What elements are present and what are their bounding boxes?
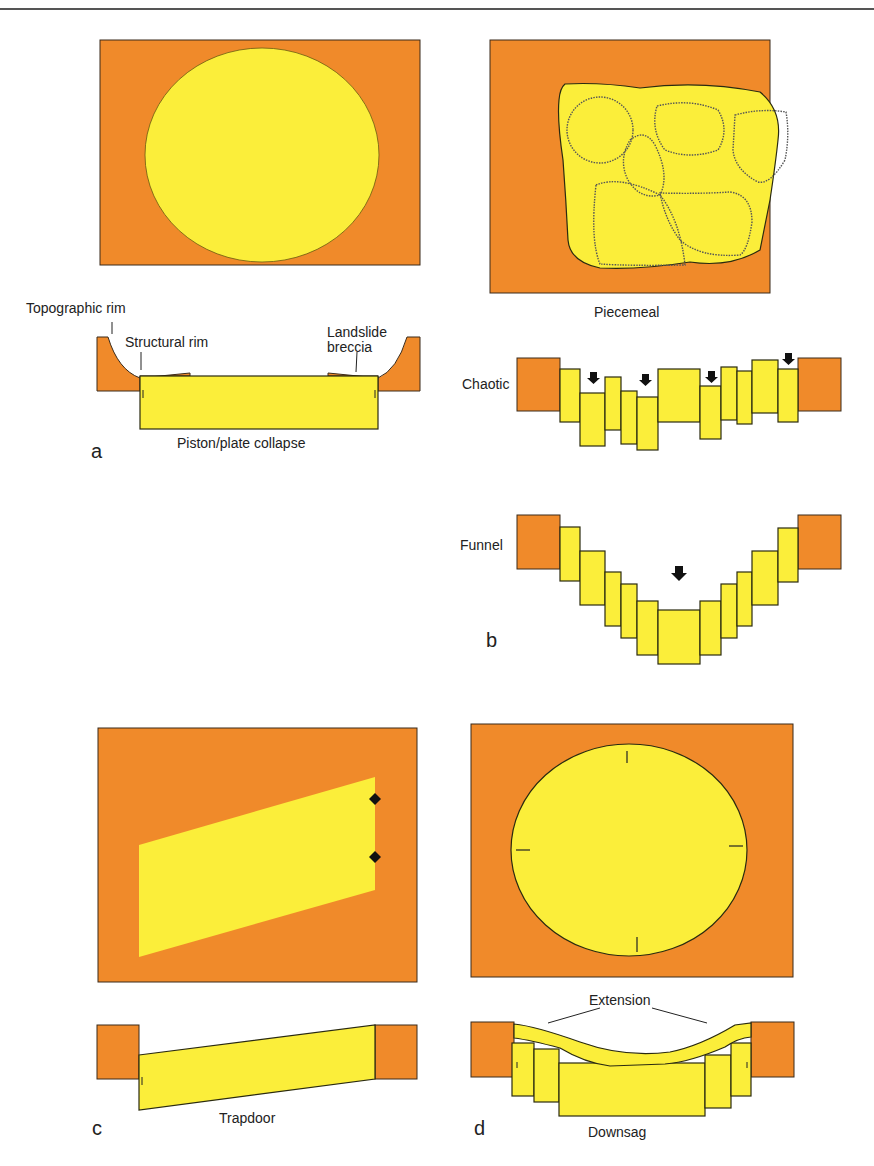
panel-b: Piecemeal Chaotic [460, 40, 841, 664]
chaotic-label: Chaotic [462, 376, 509, 392]
caldera-diagram: Topographic rim Structural rim Landslide… [0, 0, 874, 1166]
panel-a-title: Piston/plate collapse [177, 435, 306, 451]
panel-a: Topographic rim Structural rim Landslide… [26, 40, 420, 462]
chaotic-section [517, 353, 841, 450]
panel-d-cross-section [471, 1022, 794, 1116]
panel-a-map-view [100, 40, 420, 265]
landslide-breccia-leader [356, 352, 357, 372]
panel-b-letter: b [486, 629, 497, 651]
extension-arrows [548, 1008, 707, 1023]
panel-b-title: Piecemeal [594, 304, 659, 320]
panel-b-map-view [490, 40, 788, 293]
funnel-label: Funnel [460, 537, 503, 553]
panel-d-map-view [471, 724, 793, 977]
funnel-arrow-icon [671, 566, 687, 581]
panel-d-letter: d [474, 1117, 485, 1139]
panel-c-map-view [98, 728, 417, 982]
extension-label: Extension [589, 992, 650, 1008]
structural-rim-label: Structural rim [125, 334, 208, 350]
panel-c-cross-section [97, 1025, 417, 1110]
topographic-rim-label: Topographic rim [26, 300, 126, 316]
panel-c: Trapdoor c [92, 728, 417, 1139]
funnel-section [517, 515, 841, 664]
landslide-label: Landslide [327, 324, 387, 340]
panel-d-title: Downsag [588, 1124, 646, 1140]
breccia-label: breccia [327, 339, 372, 355]
panel-c-letter: c [92, 1117, 102, 1139]
panel-d: Extension Downsag d [471, 724, 794, 1140]
panel-c-title: Trapdoor [219, 1110, 276, 1126]
panel-a-letter: a [91, 440, 103, 462]
